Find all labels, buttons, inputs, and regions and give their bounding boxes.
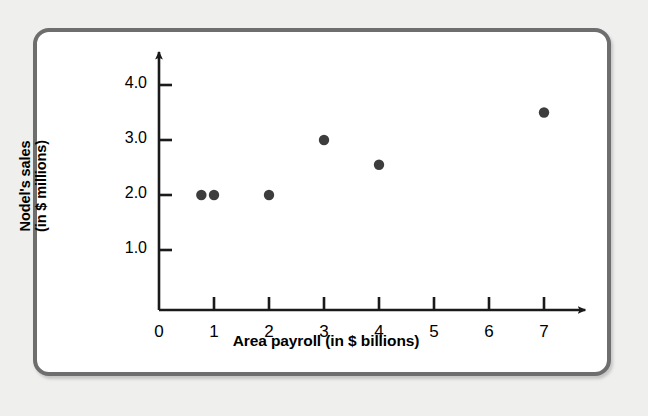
x-tick-label: 2: [255, 322, 283, 342]
data-point: [374, 160, 384, 170]
x-tick-label: 1: [200, 322, 228, 342]
data-point: [264, 190, 274, 200]
x-tick-label: 6: [475, 322, 503, 342]
x-tick-label: 7: [530, 322, 558, 342]
y-tick-label: 4.0: [101, 74, 147, 92]
y-axis-title-line-1: Nodel's sales: [17, 86, 33, 286]
figure-card: Nodel's sales (in $ millions) Area payro…: [33, 28, 611, 376]
data-point: [196, 190, 206, 200]
x-tick-label: 5: [420, 322, 448, 342]
y-tick-label: 2.0: [101, 184, 147, 202]
data-point: [319, 135, 329, 145]
y-tick-label: 3.0: [101, 129, 147, 147]
x-tick-label: 0: [145, 322, 173, 342]
scatter-plot: Nodel's sales (in $ millions) Area payro…: [37, 32, 615, 380]
data-point: [539, 107, 549, 117]
data-point: [209, 190, 219, 200]
y-axis-title: Nodel's sales (in $ millions): [17, 86, 49, 286]
y-tick-label: 1.0: [101, 239, 147, 257]
x-tick-label: 3: [310, 322, 338, 342]
y-axis-title-line-2: (in $ millions): [33, 86, 49, 286]
x-tick-label: 4: [365, 322, 393, 342]
